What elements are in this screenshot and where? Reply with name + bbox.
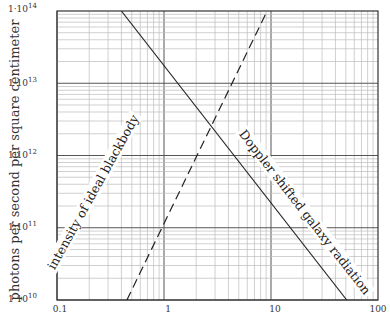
y-tick-label-1e10: 1·1010 xyxy=(8,292,37,304)
y-tick-label-1e14: 1·1014 xyxy=(8,2,37,14)
y-tick-label-1e13: 1·1013 xyxy=(8,76,37,88)
y-axis-title: photons per second per square centimeter xyxy=(7,20,22,301)
y-tick-label-1e12: 1·1012 xyxy=(8,148,37,160)
x-tick-label-1: 1 xyxy=(165,304,171,314)
x-tick-label-10: 10 xyxy=(269,304,280,314)
x-tick-label-0.1: 0.1 xyxy=(53,304,67,314)
x-tick-label-100: 100 xyxy=(369,304,386,314)
plot-area xyxy=(0,0,390,323)
y-tick-label-1e11: 1·1011 xyxy=(8,220,37,232)
